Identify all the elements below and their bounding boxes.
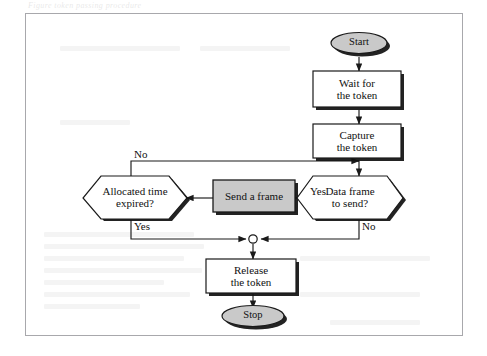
edge-hasframe-no-to-merge [261, 220, 359, 239]
node-stop[interactable] [222, 306, 284, 327]
node-capture-token[interactable] [313, 124, 401, 158]
node-start[interactable] [331, 33, 387, 54]
edge-label-yes-expired: Yes [134, 220, 150, 232]
edge-label-no-loopback: No [134, 148, 147, 160]
edge-expired-no-loopback [131, 161, 359, 176]
node-merge-junction[interactable] [249, 235, 257, 243]
edge-label-yes-send: Yes [310, 185, 326, 197]
node-allocated-time-expired[interactable] [83, 176, 187, 219]
flowchart-canvas [0, 0, 487, 356]
node-data-frame-to-send[interactable] [297, 176, 403, 219]
edge-label-no-noframe: No [362, 220, 375, 232]
node-send-a-frame[interactable] [213, 180, 295, 212]
node-wait-for-token[interactable] [313, 71, 401, 107]
node-release-token[interactable] [206, 259, 296, 293]
